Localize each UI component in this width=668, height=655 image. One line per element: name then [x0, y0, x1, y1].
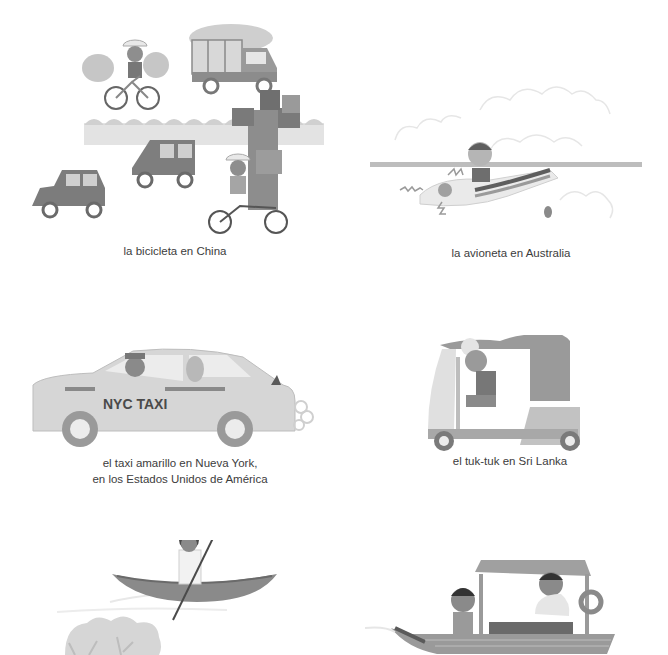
- plane-australia-illustration: [360, 80, 660, 260]
- plane-icon: [370, 142, 642, 218]
- tricycle-icon: [209, 90, 300, 233]
- caption-taxi-line-1: el taxi amarillo en Nueva York,: [65, 455, 295, 471]
- van-icon: [132, 140, 195, 187]
- taxi-icon: NYC TAXI: [33, 349, 313, 447]
- caption-taxi-new-york: el taxi amarillo en Nueva York, en los E…: [65, 455, 295, 487]
- truck-icon: [189, 24, 277, 93]
- bicycle-china-illustration: [20, 10, 330, 240]
- caption-bicycle-china: la bicicleta en China: [110, 243, 240, 259]
- caption-tuktuk-sri-lanka: el tuk-tuk en Sri Lanka: [435, 453, 585, 469]
- taxi-sign-text: NYC TAXI: [103, 396, 167, 412]
- canoe-illustration: [55, 540, 295, 655]
- tuktuk-sri-lanka-illustration: [420, 335, 600, 453]
- tuktuk-icon: [428, 335, 580, 451]
- taxi-new-york-illustration: NYC TAXI: [25, 345, 325, 455]
- covered-boat-illustration: [365, 560, 665, 655]
- cyclist-icon: [82, 40, 169, 109]
- exhaust-smoke-icon: [294, 401, 313, 430]
- bushes-icon: [65, 616, 161, 655]
- canoe-icon: [57, 540, 277, 620]
- illustration-covered-boat: [365, 560, 665, 655]
- illustration-bicycle-china: la bicicleta en China: [20, 10, 330, 240]
- illustration-taxi-new-york: NYC TAXI el taxi amarillo en Nueva York,…: [25, 345, 325, 490]
- illustration-plane-australia: la avioneta en Australia: [360, 80, 660, 270]
- illustration-tuktuk-sri-lanka: el tuk-tuk en Sri Lanka: [420, 335, 600, 475]
- caption-plane-australia: la avioneta en Australia: [436, 245, 586, 261]
- illustration-canoe: [55, 540, 295, 655]
- covered-boat-icon: [365, 560, 615, 654]
- car-icon: [32, 170, 105, 217]
- caption-taxi-line-2: en los Estados Unidos de América: [65, 471, 295, 487]
